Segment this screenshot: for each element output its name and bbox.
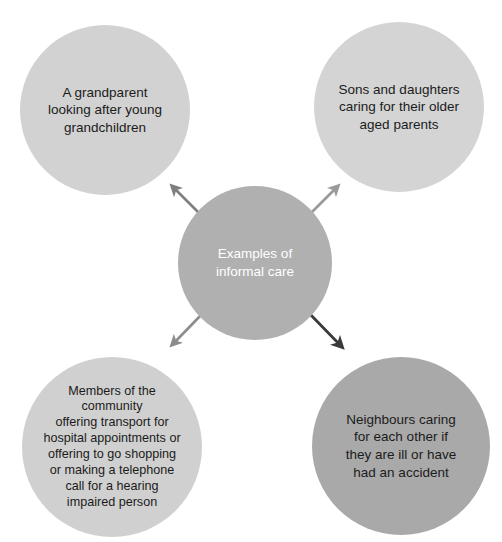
node-sons-daughters: Sons and daughters caring for their olde… — [314, 22, 484, 192]
node-neighbours-label: Neighbours caring for each other if they… — [326, 411, 476, 481]
node-center-hub: Examples of informal care — [178, 186, 332, 340]
informal-care-diagram: A grandparent looking after young grandc… — [0, 0, 502, 542]
node-sons-daughters-label: Sons and daughters caring for their olde… — [328, 81, 470, 134]
node-center-hub-label: Examples of informal care — [190, 245, 320, 280]
node-community-label: Members of the community offering transp… — [29, 384, 195, 511]
node-grandparent: A grandparent looking after young grandc… — [20, 25, 190, 195]
node-community: Members of the community offering transp… — [22, 357, 202, 537]
node-grandparent-label: A grandparent looking after young grandc… — [35, 84, 175, 137]
node-neighbours: Neighbours caring for each other if they… — [312, 357, 490, 535]
arrow-to-community — [172, 313, 203, 345]
arrow-to-sons-daughters — [309, 186, 338, 215]
arrow-to-neighbours — [307, 311, 342, 347]
